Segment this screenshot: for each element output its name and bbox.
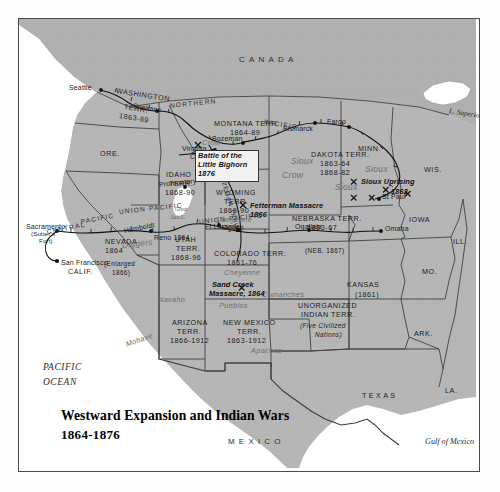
label-tribe-sioux-1: Sioux — [291, 157, 313, 166]
map-title-block: Westward Expansion and Indian Wars 1864-… — [61, 408, 289, 443]
label-sutters-line2: Fort) — [39, 238, 53, 245]
label-san-francisco: San Francisco — [61, 259, 108, 266]
label-colorado-dates: 1861-76 — [227, 259, 257, 267]
label-idaho-dates: 1868-90 — [165, 189, 195, 197]
label-pacific-ocean-line1: PACIFIC — [43, 360, 82, 374]
label-great-salt-lake-line2: Salt L. — [171, 215, 185, 221]
label-kansas: KANSAS — [347, 281, 379, 289]
label-pacific-ocean-line2: OCEAN — [43, 375, 77, 389]
label-louisiana: LA. — [445, 387, 457, 395]
label-sioux-uprising-line1: Sioux Uprising — [361, 178, 415, 186]
label-new-mexico: NEW MEXICO — [223, 319, 276, 327]
city-dot-seattle — [99, 88, 103, 92]
label-new-mexico-terr: TERR. — [237, 328, 261, 336]
label-fargo: Fargo — [327, 118, 346, 125]
label-nevada-enlarged: (Enlarged — [104, 261, 135, 268]
label-nations: Nations) — [315, 332, 342, 339]
map-frame: CANADA MEXICO PACIFIC OCEAN Gulf of Mexi… — [18, 18, 480, 472]
label-fetterman-line2: 1866 — [250, 211, 267, 219]
label-neb-1867: (NEB. 1867) — [305, 248, 345, 255]
city-dot-st-paul — [377, 197, 381, 201]
label-ogallala: Ogallala — [295, 223, 322, 230]
label-tribe-comanches: Comanches — [262, 291, 304, 299]
label-tribe-pueblos: Pueblos — [219, 302, 248, 310]
label-nevada-enlarged-date: 1866) — [112, 270, 130, 277]
label-iowa: IOWA — [409, 216, 430, 224]
label-omaha: Omaha — [385, 225, 409, 232]
label-five-civilized: (Five Civilized — [300, 323, 346, 330]
label-dakota-dates1: 1863-64 — [320, 160, 350, 168]
label-nebraska: NEBRASKA TERR. — [292, 215, 362, 223]
label-sand-creek-line2: Massacre, 1864 — [209, 290, 265, 298]
label-tribe-crow-2: Crow — [282, 171, 303, 180]
label-arizona: ARIZONA — [172, 319, 208, 327]
label-unorganized: UNORGANIZED — [298, 302, 357, 310]
label-reno: Reno 1864 — [154, 234, 190, 241]
label-minnesota: MINN. — [358, 145, 381, 153]
label-arizona-terr: TERR. — [177, 328, 201, 336]
label-tribe-cheyenne-1: Cheyenne — [216, 216, 252, 224]
city-dot-fargo — [347, 125, 351, 129]
map-page: CANADA MEXICO PACIFIC OCEAN Gulf of Mexi… — [0, 0, 500, 492]
city-dot-bismarck — [313, 121, 317, 125]
label-missouri: MO. — [422, 268, 437, 276]
label-tribe-navaho: Navaho — [158, 296, 185, 304]
label-nevada-date: 1864 — [105, 247, 123, 255]
label-little-bighorn-line3: 1876 — [198, 170, 215, 178]
label-utah-terr: TERR. — [176, 245, 200, 253]
label-seattle: Seattle — [69, 84, 92, 91]
label-arkansas: ARK. — [414, 330, 433, 338]
map-title-line1: Westward Expansion and Indian Wars — [61, 408, 289, 424]
label-tribe-cheyenne-2: Cheyenne — [224, 269, 260, 277]
label-gulf-of-mexico: Gulf of Mexico — [425, 438, 474, 447]
label-california: CALIF. — [68, 268, 93, 276]
label-tribe-sioux-2: Sioux — [335, 183, 357, 192]
city-dot-san-francisco — [55, 259, 59, 263]
label-dakota-dates2: 1868-82 — [320, 169, 350, 177]
label-illinois: ILL. — [453, 238, 467, 246]
label-arizona-dates: 1866-1912 — [170, 337, 209, 345]
map-title-line2: 1864-1876 — [61, 427, 289, 443]
city-dot-omaha — [379, 229, 383, 233]
label-colorado: COLORADO TERR. — [214, 250, 286, 258]
label-canada: CANADA — [239, 56, 298, 64]
label-indian-terr: INDIAN TERR. — [301, 311, 355, 319]
label-new-mexico-dates: 1863-1912 — [227, 337, 266, 345]
label-sioux-uprising-line2: 1862 — [391, 188, 408, 196]
city-dot-reno — [149, 229, 153, 233]
label-oregon: ORE. — [100, 150, 120, 158]
label-wisconsin: WIS. — [424, 166, 442, 174]
label-tribe-sioux-3: Sioux — [365, 165, 388, 174]
label-texas: TEXAS — [362, 392, 398, 400]
label-tribe-apaches: Apaches — [251, 347, 282, 355]
label-kansas-date: (1861) — [355, 291, 379, 299]
label-tribe-crow-1: Crow — [202, 139, 220, 147]
label-utah-dates: 1868-96 — [171, 254, 201, 262]
